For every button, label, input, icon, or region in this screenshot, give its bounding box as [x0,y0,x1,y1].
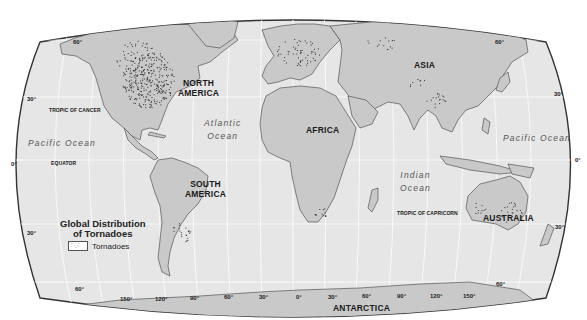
lat-label-60s-left: 60° [75,286,84,292]
lat-label-30s-right: 30° [555,224,564,230]
label-pacific-ocean-west: Pacific Ocean [28,137,96,150]
tornado-symbol-icon: ⁚⁛⁚ [68,241,88,251]
label-antarctica: ANTARCTICA [333,303,390,313]
lon-label-0: 0° [296,294,302,300]
label-north-america: NORTH AMERICA [178,78,219,98]
map-legend: Global Distribution of Tornadoes ⁚⁛⁚ Tor… [60,219,146,251]
label-equator: EQUATOR [51,160,76,166]
lon-label-120e: 120° [430,293,442,299]
lat-label-0-right: 0° [575,157,581,163]
lat-label-60s-right: 60° [496,281,505,287]
lon-label-90e: 90° [397,293,406,299]
label-australia: AUSTRALIA [483,213,534,223]
lon-label-150w: 150° [120,296,132,302]
lon-label-60e: 60° [362,293,371,299]
lon-label-150e: 150° [463,293,475,299]
lat-label-60n-left: 60° [73,39,82,45]
lon-label-90w: 90° [190,295,199,301]
lat-label-30s-left: 30° [27,230,36,236]
world-map [0,0,587,320]
label-pacific-ocean-east: Pacific Ocean [503,132,571,145]
lon-label-120w: 120° [155,296,167,302]
lon-label-30w: 30° [259,294,268,300]
label-asia: ASIA [414,60,435,70]
legend-title-line2: of Tornadoes [60,229,146,239]
label-africa: AFRICA [306,125,339,135]
lat-label-0-left: 0° [11,161,17,167]
label-tropic-of-cancer: TROPIC OF CANCER [49,107,101,113]
label-south-america: SOUTH AMERICA [185,179,226,199]
lat-label-30n-left: 30° [27,96,36,102]
label-atlantic-ocean: Atlantic Ocean [204,117,241,143]
lon-label-30e: 30° [328,294,337,300]
lon-label-60w: 60° [224,294,233,300]
lat-label-30n-right: 30° [554,91,563,97]
lat-label-60n-right: 60° [495,39,504,45]
label-indian-ocean: Indian Ocean [400,169,431,195]
label-tropic-of-capricorn: TROPIC OF CAPRICORN [397,210,458,216]
legend-label: Tornadoes [92,242,129,251]
